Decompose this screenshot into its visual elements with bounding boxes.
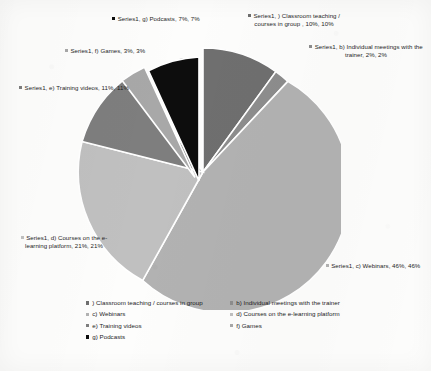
data-label-marker-a [248,14,251,17]
data-label-marker-b [309,45,312,48]
legend-item-d[interactable]: d) Courses on the e-learning platform [230,310,340,318]
data-label-text-e: Series1, e) Training videos, 11%, 11% [25,84,129,91]
data-label-text-c: Series1, c) Webinars, 46%, 46% [331,262,420,269]
legend-item-a[interactable]: ) Classroom teaching / courses in group [86,299,230,307]
legend-label-a: ) Classroom teaching / courses in group [92,299,203,307]
data-label-marker-g [112,17,115,20]
data-label-g: Series1, g) Podcasts, 7%, 7% [96,15,216,23]
legend-key-c [86,313,89,316]
data-label-marker-f [65,49,68,52]
data-label-marker-c [326,264,329,267]
data-label-b: Series1, b) Individual meetings with the… [306,43,426,60]
data-label-text-d: Series1, d) Courses on the e-learning pl… [25,234,107,249]
data-label-e: Series1, e) Training videos, 11%, 11% [12,84,136,92]
data-label-text-b: Series1, b) Individual meetings with the… [315,43,423,58]
legend-row: g) Podcasts [86,333,386,341]
data-label-marker-e [19,86,22,89]
legend-label-d: d) Courses on the e-learning platform [236,310,340,318]
legend-row: ) Classroom teaching / courses in group … [86,299,386,307]
legend-item-c[interactable]: c) Webinars [86,310,230,318]
legend-row: e) Training videos f) Games [86,322,386,330]
data-label-marker-d [21,236,24,239]
legend-label-f: f) Games [236,322,262,330]
legend-label-g: g) Podcasts [92,333,125,341]
legend-item-e[interactable]: e) Training videos [86,322,230,330]
pie-chart: Series1, ) Classroom teaching / courses … [0,0,431,371]
pie-svg [65,34,341,310]
legend-label-e: e) Training videos [92,322,141,330]
legend-item-f[interactable]: f) Games [230,322,262,330]
legend-key-e [86,324,89,327]
data-label-c: Series1, c) Webinars, 46%, 46% [318,262,428,270]
legend-key-b [230,301,233,304]
legend-key-d [230,313,233,316]
data-label-a: Series1, ) Classroom teaching / courses … [238,12,350,29]
legend-key-g [86,335,89,338]
legend-key-f [230,324,233,327]
legend-item-b[interactable]: b) Individual meetings with the trainer [230,299,340,307]
legend-label-c: c) Webinars [92,310,125,318]
legend-key-a [86,301,89,304]
legend-row: c) Webinars d) Courses on the e-learning… [86,310,386,318]
data-label-text-a: Series1, ) Classroom teaching / courses … [253,12,340,27]
data-label-text-f: Series1, f) Games, 3%, 3% [70,47,145,54]
legend-label-b: b) Individual meetings with the trainer [236,299,340,307]
data-label-d: Series1, d) Courses on the e-learning pl… [11,234,117,251]
legend-item-g[interactable]: g) Podcasts [86,333,230,341]
chart-legend: ) Classroom teaching / courses in group … [86,299,386,345]
data-label-text-g: Series1, g) Podcasts, 7%, 7% [118,15,200,22]
data-label-f: Series1, f) Games, 3%, 3% [40,47,170,55]
